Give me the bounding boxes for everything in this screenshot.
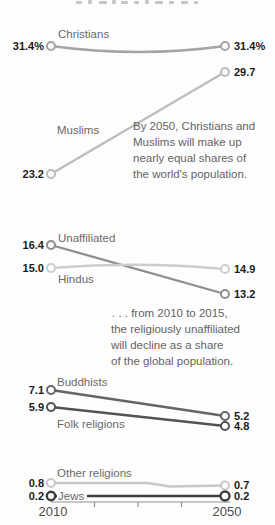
value-folk-religions-2050: 4.8 xyxy=(234,420,249,432)
annotation-line: the world's population. xyxy=(133,168,247,180)
series-label-jews: Jews xyxy=(58,490,84,502)
annotation-unaffiliated: . . . from 2010 to 2015, the religiously… xyxy=(110,307,240,367)
annotation-line: nearly equal shares of xyxy=(133,152,247,164)
marker-christians-2050 xyxy=(221,42,229,50)
slope-chart: Christians Muslims Unaffiliated Hindus B… xyxy=(0,0,275,525)
marker-unaffiliated-2010 xyxy=(47,241,55,249)
annotation-line: . . . from 2010 to 2015, xyxy=(112,307,228,319)
value-unaffiliated-2010: 16.4 xyxy=(23,239,45,251)
marker-muslims-2010 xyxy=(47,170,55,178)
marker-buddhists-2010 xyxy=(47,386,55,394)
marker-folk-religions-2050 xyxy=(221,422,229,430)
annotation-line: the religiously unaffiliated xyxy=(111,323,240,335)
value-muslims-2050: 29.7 xyxy=(234,66,255,78)
value-christians-2050: 31.4% xyxy=(234,40,265,52)
marker-folk-religions-2010 xyxy=(47,403,55,411)
line-unaffiliated xyxy=(51,245,225,294)
value-folk-religions-2010: 5.9 xyxy=(29,401,44,413)
marker-muslims-2050 xyxy=(221,68,229,76)
annotation-line: Muslims will make up xyxy=(133,136,242,148)
annotation-christians-muslims: By 2050, Christians and Muslims will mak… xyxy=(133,120,255,180)
annotation-line: By 2050, Christians and xyxy=(133,120,255,132)
series-label-muslims: Muslims xyxy=(57,124,99,136)
line-buddhists xyxy=(51,390,225,416)
value-hindus-2010: 15.0 xyxy=(23,262,44,274)
value-unaffiliated-2050: 13.2 xyxy=(234,288,255,300)
value-hindus-2050: 14.9 xyxy=(234,263,255,275)
series-label-christians: Christians xyxy=(58,28,109,40)
marker-hindus-2010 xyxy=(47,264,55,272)
marker-unaffiliated-2050 xyxy=(221,290,229,298)
value-christians-2010: 31.4% xyxy=(13,40,44,52)
x-axis-label-2050: 2050 xyxy=(213,504,242,519)
series-label-other-religions: Other religions xyxy=(57,467,132,479)
line-other-religions xyxy=(51,483,225,487)
x-axis xyxy=(51,502,230,507)
marker-christians-2010 xyxy=(47,42,55,50)
value-buddhists-2010: 7.1 xyxy=(29,384,44,396)
value-jews-2010: 0.2 xyxy=(29,490,44,502)
x-axis-label-2010: 2010 xyxy=(39,504,68,519)
slope-chart-svg: Christians Muslims Unaffiliated Hindus B… xyxy=(0,0,275,525)
cropped-title-remnant xyxy=(76,0,198,4)
value-muslims-2010: 23.2 xyxy=(23,168,44,180)
series-label-buddhists: Buddhists xyxy=(57,376,108,388)
marker-jews-2050 xyxy=(221,492,230,501)
annotation-line: of the global population. xyxy=(111,355,233,367)
marker-other-religions-2010 xyxy=(47,479,55,487)
marker-hindus-2050 xyxy=(221,265,229,273)
series-label-unaffiliated: Unaffiliated xyxy=(58,232,115,244)
series-label-folk-religions: Folk religions xyxy=(57,418,125,430)
value-other-religions-2010: 0.8 xyxy=(29,477,44,489)
series-label-hindus: Hindus xyxy=(58,273,94,285)
value-jews-2050: 0.2 xyxy=(234,490,249,502)
marker-jews-2010 xyxy=(47,492,55,500)
marker-other-religions-2050 xyxy=(221,482,229,490)
annotation-line: will decline as a share xyxy=(110,339,224,351)
marker-buddhists-2050 xyxy=(221,412,229,420)
line-christians xyxy=(51,46,225,52)
